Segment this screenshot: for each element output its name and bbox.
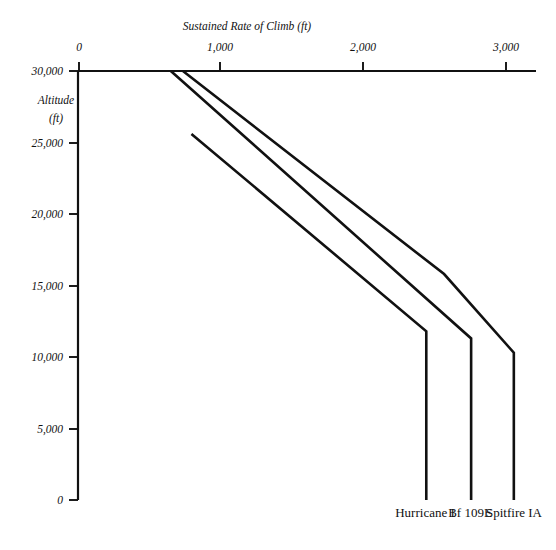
x-tick-label-2000: 2,000 bbox=[350, 41, 376, 54]
series-label-spitfire: Spitfire IA bbox=[486, 505, 543, 520]
y-tick-label-5000: 5,000 bbox=[37, 423, 63, 436]
series-line-spitfire bbox=[183, 71, 514, 500]
x-axis-title: Sustained Rate of Climb (ft) bbox=[183, 20, 312, 33]
series-label-hurricane: Hurricane I bbox=[395, 505, 455, 520]
y-tick-label-30000: 30,000 bbox=[30, 65, 63, 78]
y-axis-title-line1: Altitude bbox=[37, 94, 74, 106]
x-tick-label-1000: 1,000 bbox=[207, 41, 233, 54]
y-axis-title-line2: (ft) bbox=[49, 112, 63, 125]
y-tick-label-10000: 10,000 bbox=[31, 351, 63, 364]
x-tick-label-0: 0 bbox=[76, 41, 82, 53]
chart-canvas: Sustained Rate of Climb (ft) 0 1,000 2,0… bbox=[0, 0, 556, 550]
climb-rate-chart: Sustained Rate of Climb (ft) 0 1,000 2,0… bbox=[0, 0, 556, 550]
x-tick-label-3000: 3,000 bbox=[492, 41, 519, 54]
y-tick-label-15000: 15,000 bbox=[31, 280, 63, 293]
y-tick-label-25000: 25,000 bbox=[31, 137, 63, 150]
series-line-hurricane bbox=[191, 134, 426, 500]
y-tick-label-0: 0 bbox=[57, 494, 63, 506]
y-tick-label-20000: 20,000 bbox=[31, 208, 63, 221]
